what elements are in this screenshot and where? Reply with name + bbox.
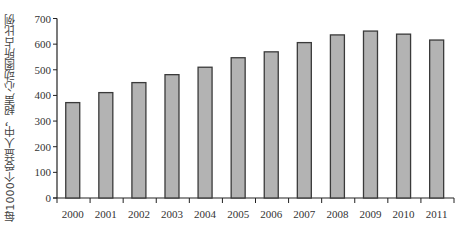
x-tick-label: 2000	[62, 208, 85, 220]
x-tick-label: 2011	[426, 208, 448, 220]
bar-chart: 每1000个受益人中，超声心动图所占比例 0100200300400500600…	[0, 0, 465, 231]
y-tick-label: 700	[35, 13, 52, 25]
y-tick-label: 500	[35, 64, 52, 76]
y-tick-label: 300	[35, 115, 52, 127]
x-tick-label: 2006	[260, 208, 283, 220]
y-axis-label-text: 每1000个受益人中，超声心动图所占比例	[3, 14, 19, 222]
y-tick-label: 600	[35, 38, 52, 50]
bar-2007	[297, 43, 311, 198]
x-tick-label: 2003	[161, 208, 184, 220]
bar-2008	[330, 35, 344, 198]
bar-2006	[264, 52, 278, 198]
y-tick-label: 200	[35, 141, 52, 153]
y-axis-label: 每1000个受益人中，超声心动图所占比例	[3, 18, 19, 218]
bar-2011	[430, 40, 444, 198]
x-tick-label: 2007	[293, 208, 316, 220]
x-tick-label: 2008	[326, 208, 349, 220]
x-tick-label: 2001	[95, 208, 117, 220]
x-tick-label: 2010	[393, 208, 416, 220]
y-tick-label: 100	[35, 166, 52, 178]
x-tick-label: 2005	[227, 208, 250, 220]
bar-2003	[165, 75, 179, 198]
bar-2005	[231, 58, 245, 198]
bar-2004	[198, 67, 212, 198]
bar-2002	[132, 83, 146, 198]
x-tick-label: 2004	[194, 208, 217, 220]
y-tick-label: 0	[46, 192, 52, 204]
x-tick-label: 2009	[359, 208, 382, 220]
bar-2010	[397, 34, 411, 198]
bar-2009	[363, 31, 377, 198]
bar-2000	[66, 103, 80, 198]
y-tick-label: 400	[35, 89, 52, 101]
bar-2001	[99, 93, 113, 198]
x-tick-label: 2002	[128, 208, 150, 220]
plot-area: 0100200300400500600700200020012002200320…	[0, 0, 465, 231]
